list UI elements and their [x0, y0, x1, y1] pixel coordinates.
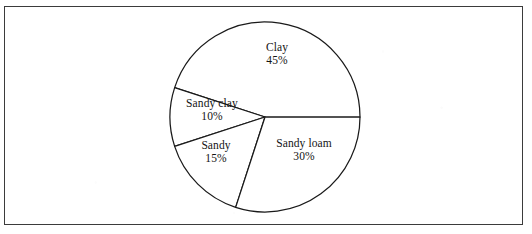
pie-label-sandy-clay: Sandy clay10%	[186, 97, 238, 123]
pie-label-name: Clay	[266, 41, 288, 54]
pie-label-value: 45%	[266, 54, 288, 67]
pie-label-value: 15%	[201, 152, 230, 165]
pie-label-sandy: Sandy15%	[201, 139, 230, 165]
pie-label-name: Sandy loam	[276, 137, 332, 150]
pie-label-sandy-loam: Sandy loam30%	[276, 137, 332, 163]
pie-label-name: Sandy clay	[186, 97, 238, 110]
pie-label-value: 10%	[186, 110, 238, 123]
pie-label-name: Sandy	[201, 139, 230, 152]
pie-label-value: 30%	[276, 150, 332, 163]
pie-chart-canvas	[0, 0, 532, 234]
pie-chart-figure: Clay45%Sandy clay10%Sandy15%Sandy loam30…	[0, 0, 532, 234]
pie-label-clay: Clay45%	[266, 41, 288, 67]
